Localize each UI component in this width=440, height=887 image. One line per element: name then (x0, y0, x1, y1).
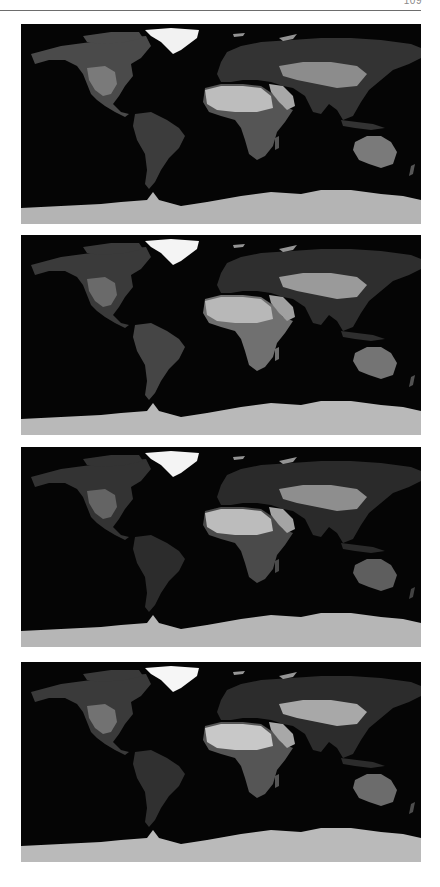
madagascar (275, 774, 279, 788)
sahara-desert (205, 724, 273, 750)
sahara-desert (205, 86, 273, 112)
world-map-panel-2 (21, 235, 421, 435)
world-map-panel-4 (21, 662, 421, 862)
world-map-panel-1 (21, 24, 421, 224)
sahara-desert (205, 509, 273, 535)
world-map-image (21, 447, 421, 647)
world-map-panel-3 (21, 447, 421, 647)
madagascar (275, 347, 279, 361)
world-map-image (21, 24, 421, 224)
header-rule (0, 10, 421, 11)
page-number: 109 (404, 0, 422, 6)
world-map-image (21, 662, 421, 862)
sahara-desert (205, 297, 273, 323)
madagascar (275, 136, 279, 150)
madagascar (275, 559, 279, 573)
world-map-image (21, 235, 421, 435)
